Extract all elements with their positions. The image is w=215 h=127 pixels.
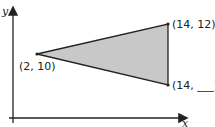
vertex-point — [35, 52, 38, 55]
vertex-label-b: (14, 12) — [172, 18, 215, 31]
vertex-point — [166, 22, 169, 25]
triangle — [37, 24, 168, 85]
y-axis-label: y — [1, 5, 9, 18]
vertex-label-c: (14, ___) — [172, 79, 215, 92]
vertex-point — [166, 83, 169, 86]
coordinate-diagram: y x (2, 10) (14, 12) (14, ___) — [0, 0, 215, 127]
vertex-label-a: (2, 10) — [19, 60, 56, 73]
x-axis-label: x — [182, 117, 189, 127]
